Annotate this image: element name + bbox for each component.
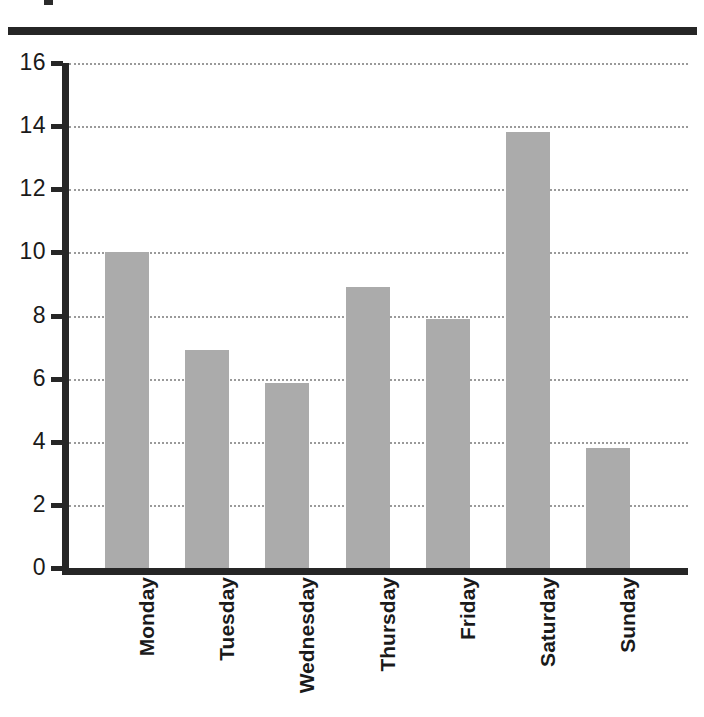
bar <box>265 383 309 568</box>
bar <box>105 252 149 568</box>
bar <box>506 132 550 568</box>
x-tick-label: Saturday <box>537 577 558 667</box>
bars <box>0 40 704 568</box>
cropped-heading-remnant <box>44 0 53 5</box>
x-tick-label: Friday <box>457 577 478 640</box>
x-tick-label-text: Monday <box>136 577 157 656</box>
bar <box>586 448 630 568</box>
x-tick-label-text: Tuesday <box>216 577 237 661</box>
x-tick-label-text: Friday <box>457 577 478 640</box>
x-tick-label-text: Thursday <box>377 577 398 672</box>
horizontal-rule <box>8 27 697 35</box>
x-tick-label-text: Saturday <box>537 577 558 667</box>
x-axis-labels: MondayTuesdayWednesdayThursdayFridaySatu… <box>0 577 704 717</box>
x-tick-label: Sunday <box>617 577 638 653</box>
x-tick-label: Monday <box>136 577 157 656</box>
bar-chart: 0246810121416 MondayTuesdayWednesdayThur… <box>0 40 704 717</box>
x-tick-label-text: Sunday <box>617 577 638 653</box>
bar <box>426 319 470 568</box>
bar <box>346 287 390 568</box>
x-tick-label-text: Wednesday <box>296 577 317 693</box>
x-tick-label: Tuesday <box>216 577 237 661</box>
bar <box>185 350 229 568</box>
x-axis-line <box>62 568 688 575</box>
x-tick-label: Wednesday <box>296 577 317 693</box>
x-tick-label: Thursday <box>377 577 398 672</box>
plot-area: 0246810121416 MondayTuesdayWednesdayThur… <box>0 40 704 717</box>
